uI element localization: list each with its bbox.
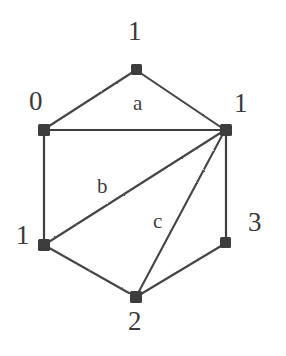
edge-label-b: b (97, 176, 108, 197)
vertex-marker-lower-right (220, 237, 231, 248)
vertex-marker-upper-right (220, 124, 232, 136)
edge-c-chord (136, 130, 225, 297)
graph-canvas (0, 0, 286, 356)
vertex-label-lower-right: 3 (248, 209, 262, 236)
graph-diagram-figure: 1 0 1 1 3 2 a b c (0, 0, 286, 356)
vertex-label-lower-left: 1 (16, 222, 30, 249)
edge-label-c: c (153, 211, 162, 232)
edge-top-upper-left (43, 70, 136, 130)
edge-lower-left-bottom (44, 245, 136, 297)
vertex-marker-upper-left (38, 124, 50, 136)
edge-label-a: a (133, 93, 142, 114)
vertex-marker-top (131, 64, 142, 75)
vertex-label-upper-right: 1 (234, 90, 248, 117)
vertex-label-upper-left: 0 (29, 88, 43, 115)
vertex-marker-bottom (130, 291, 142, 303)
vertex-marker-lower-left (38, 239, 50, 251)
edge-top-upper-right (136, 70, 225, 130)
vertex-label-bottom: 2 (128, 308, 142, 335)
edge-b-chord (44, 130, 225, 245)
vertex-label-top: 1 (128, 18, 142, 45)
